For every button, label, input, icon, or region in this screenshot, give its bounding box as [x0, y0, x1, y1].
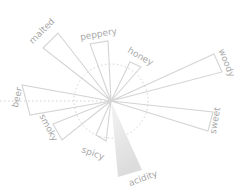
flavor-wheel-chart: beer malted peppery honey woody sweet ac…	[0, 0, 248, 192]
label-woody: woody	[217, 47, 238, 79]
label-malted: malted	[27, 16, 56, 45]
wedge-sweet	[111, 101, 213, 131]
label-honey: honey	[126, 45, 156, 68]
label-peppery: peppery	[79, 26, 118, 42]
wedge-peppery	[90, 41, 111, 101]
wedge-beer	[22, 85, 111, 115]
label-sweet: sweet	[208, 106, 223, 134]
label-beer: beer	[10, 86, 24, 108]
chart-grid	[0, 64, 148, 138]
wedges	[22, 33, 222, 177]
wedge-honey	[111, 62, 141, 101]
wedge-woody	[111, 54, 222, 101]
label-smoky: smoky	[37, 112, 60, 143]
wedge-acidity	[111, 101, 142, 177]
label-spicy: spicy	[80, 145, 106, 163]
